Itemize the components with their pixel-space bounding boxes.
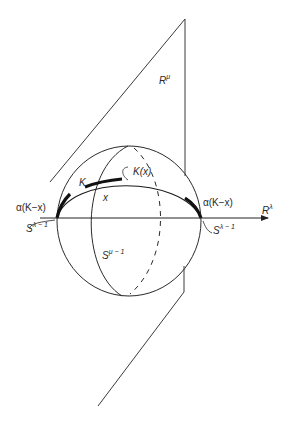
equator-arc [57,186,201,218]
plane-lower-edge [98,292,184,406]
label-x: x [102,192,109,203]
label-r-mu: Rμ [159,73,170,86]
label-s-lambda-right: Sλ − 1 [213,223,235,236]
label-alpha-left: α(K−x) [16,202,46,213]
sphere-outline [57,146,201,296]
meridian-front [91,146,128,296]
pointer-s-lambda-right [203,221,212,233]
label-s-mu: Sμ − 1 [102,248,124,261]
pointer-k-of-x [123,167,128,180]
label-r-lambda: Rλ [262,203,273,216]
label-k-of-x: K(x) [133,166,151,177]
plane-upper-edge [50,19,185,182]
label-s-lambda-left: Sλ − 1 [26,221,48,234]
label-alpha-right: α(K−x) [203,197,233,208]
sphere-diagram: Rμ Rλ K x K(x) α(K−x) α(K−x) Sλ − 1 Sλ −… [0,0,291,426]
